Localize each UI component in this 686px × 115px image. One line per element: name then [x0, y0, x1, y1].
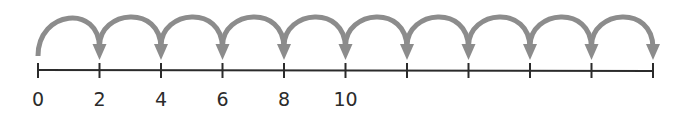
hop-arc: [38, 18, 100, 56]
hop-arc: [530, 17, 592, 48]
arrowhead-icon: [277, 44, 291, 60]
arrowhead-icon: [93, 44, 107, 60]
arrowhead-icon: [216, 44, 230, 60]
tick-label: 0: [32, 88, 44, 110]
tick-label: 4: [155, 88, 167, 110]
arrowhead-icon: [400, 44, 414, 60]
hop-arc: [284, 17, 346, 48]
hop-arc: [346, 17, 408, 48]
arrowhead-icon: [523, 44, 537, 60]
tick-label: 10: [333, 88, 357, 110]
arrowhead-icon: [585, 44, 599, 60]
tick-label: 6: [216, 88, 228, 110]
arrowhead-icon: [646, 44, 660, 60]
tick-label: 8: [278, 88, 290, 110]
hop-arc: [592, 17, 654, 48]
hop-arc: [407, 17, 469, 48]
hop-arc: [469, 17, 531, 48]
arrowhead-icon: [154, 44, 168, 60]
arrowhead-icon: [462, 44, 476, 60]
tick-label: 2: [93, 88, 105, 110]
hop-arrows: [38, 17, 660, 60]
hop-arc: [100, 17, 162, 48]
hop-arc: [161, 17, 223, 48]
hop-arc: [223, 17, 285, 48]
arrowhead-icon: [339, 44, 353, 60]
